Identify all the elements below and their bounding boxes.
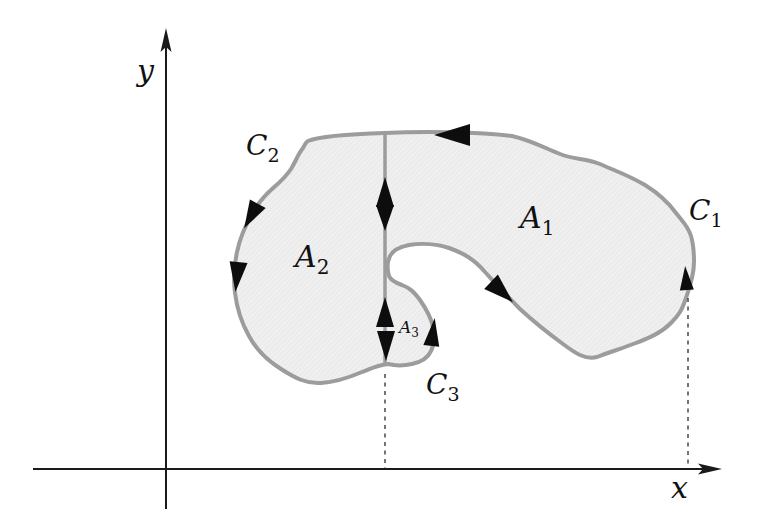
label-curve-c1: C1 xyxy=(689,194,723,231)
label-curve-c2: C2 xyxy=(246,129,280,166)
label-y-axis: y xyxy=(135,53,155,88)
label-curve-c3: C3 xyxy=(426,368,460,405)
figure-canvas: y x C2 C1 C3 A1 A2 A3 xyxy=(0,0,761,525)
diagram-svg: y x C2 C1 C3 A1 A2 A3 xyxy=(0,0,761,525)
label-x-axis: x xyxy=(671,470,688,505)
